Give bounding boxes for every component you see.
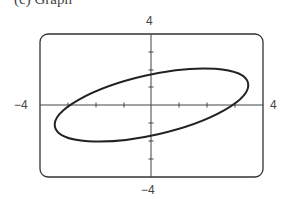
chart-plot bbox=[0, 0, 289, 199]
y-min-label: −4 bbox=[141, 184, 155, 196]
x-min-label: −4 bbox=[14, 99, 28, 111]
x-max-label: 4 bbox=[270, 99, 277, 111]
y-max-label: 4 bbox=[146, 15, 153, 27]
